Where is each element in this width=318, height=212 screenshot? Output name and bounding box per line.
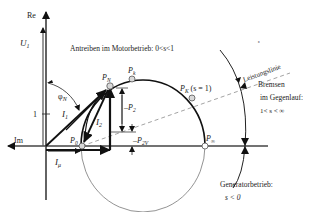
brake-label-1: Bremsen [258, 80, 285, 89]
unit-tick-label: 1 [33, 110, 37, 119]
gen-arrow-up [241, 146, 249, 154]
i2-prime: ' [98, 108, 99, 116]
p2-label: –P2 [123, 103, 136, 113]
point-pinf [202, 143, 208, 149]
generator-label-1: Generatorbetrieb: [220, 180, 273, 189]
pK-label: PK(s = 1) [179, 84, 212, 94]
circle-lower-arc [81, 146, 205, 212]
brake-label-3: 1< s < ∞ [260, 107, 284, 115]
point-pK-s1 [189, 95, 195, 101]
point-p0 [79, 143, 85, 149]
imu-label: Iμ [54, 157, 61, 168]
motor-annotation: Antreiben im Motorbetrieb: 0<s<1 [70, 44, 174, 53]
u1-label: U1 [20, 38, 30, 49]
pinf-label: P∞ [205, 134, 215, 144]
brake-arrow-down [241, 138, 249, 146]
stray-mark: ᵉ [258, 39, 260, 45]
pn-label: PN [101, 73, 111, 83]
i1-label: I1 [61, 109, 68, 120]
operating-arc [220, 50, 246, 188]
circle-diagram: Re Im 1 U1 I1 I2 ' Iμ φN P0 PN Pk PK(s =… [0, 0, 318, 212]
point-pk [129, 76, 135, 82]
re-axis-label: Re [27, 11, 36, 20]
point-pn [107, 83, 113, 89]
generator-label-2: s < 0 [225, 193, 241, 202]
p2v-label: –P2V [132, 136, 149, 146]
phi-label: φN [58, 92, 68, 102]
pk-label: Pk [127, 66, 136, 76]
brake-label-2: im Gegenlauf: [260, 93, 303, 102]
i2-label: I2 [95, 117, 102, 128]
phi-arc-start [47, 80, 53, 83]
p0-label: P0 [69, 136, 78, 146]
im-axis-label: Im [14, 136, 24, 145]
